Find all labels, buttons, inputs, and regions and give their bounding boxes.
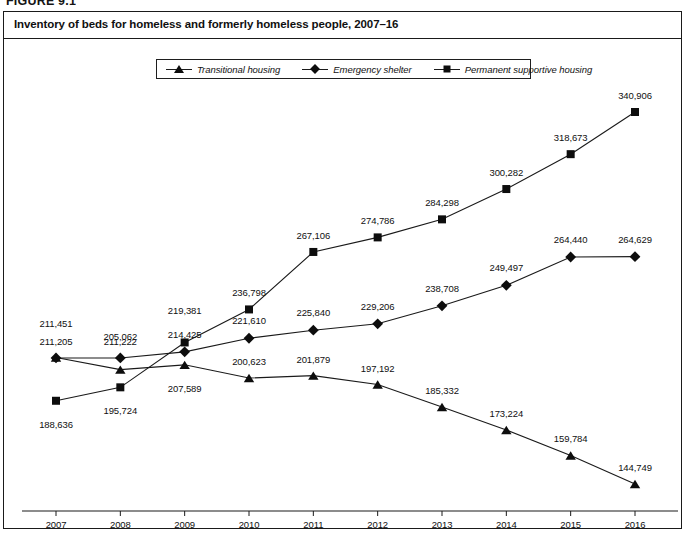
chart-legend: Transitional housing Emergency shelter P… [156, 59, 531, 79]
triangle-marker-icon [166, 63, 192, 75]
figure-border [3, 11, 682, 529]
legend-entry-permanent-supportive-housing: Permanent supportive housing [434, 63, 592, 75]
figure-root: FIGURE 9.1 Inventory of beds for homeles… [0, 0, 697, 533]
figure-caption: FIGURE 9.1 [6, 0, 76, 6]
diamond-marker-icon [302, 63, 328, 75]
legend-entry-emergency-shelter: Emergency shelter [302, 63, 411, 75]
chart-title: Inventory of beds for homeless and forme… [14, 18, 398, 30]
legend-label-permanent-supportive-housing: Permanent supportive housing [465, 64, 592, 75]
square-marker-icon [434, 63, 460, 75]
legend-label-transitional-housing: Transitional housing [197, 64, 280, 75]
legend-entry-transitional-housing: Transitional housing [166, 63, 280, 75]
legend-label-emergency-shelter: Emergency shelter [333, 64, 411, 75]
